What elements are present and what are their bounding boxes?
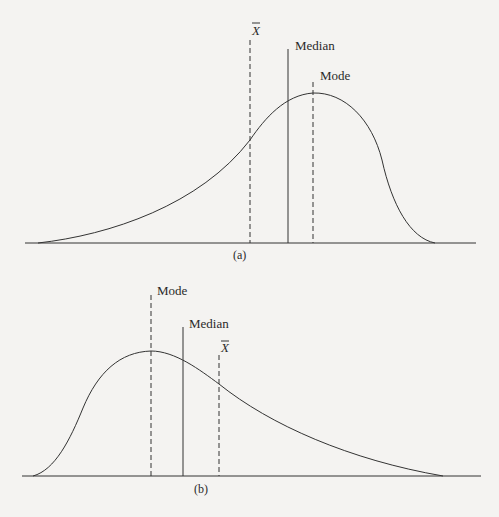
- caption-b: (b): [194, 482, 208, 496]
- figure-a: X Median Mode (a): [25, 23, 476, 262]
- mode-label-b: Mode: [157, 283, 188, 298]
- mean-label-b: X: [220, 340, 230, 355]
- curve-a: [38, 93, 435, 243]
- figure-b: Mode Median X (b): [22, 283, 481, 496]
- median-label-a: Median: [295, 38, 335, 53]
- caption-a: (a): [233, 248, 246, 262]
- skewed-distributions-diagram: X Median Mode (a) Mode Median X (b): [0, 0, 499, 517]
- mode-label-a: Mode: [320, 68, 351, 83]
- mean-label-a: X: [251, 23, 261, 38]
- curve-b: [33, 351, 443, 476]
- median-label-b: Median: [189, 316, 229, 331]
